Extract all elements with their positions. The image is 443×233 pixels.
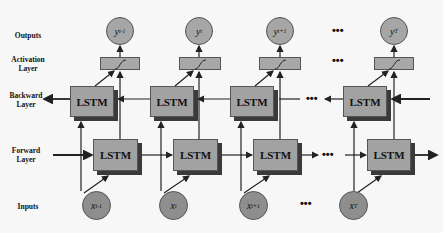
row-label-inputs: Inputs: [8, 202, 48, 211]
backward-lstm-cell-3: LSTM: [230, 86, 274, 117]
backward-lstm-cell-2: LSTM: [150, 86, 194, 117]
activation-box-3: [259, 57, 301, 70]
row-label-forward-line2: Layer: [6, 155, 46, 164]
forward-lstm-cell-3: LSTM: [253, 139, 298, 171]
input-node-t-plus-1: xt+1: [239, 191, 268, 220]
backward-lstm-cell-4: LSTM: [343, 86, 387, 117]
row-label-backward-line1: Backward: [4, 91, 48, 100]
row-label-backward-line2: Layer: [4, 100, 48, 109]
ellipsis-outputs: •••: [332, 24, 344, 36]
activation-box-1: [100, 57, 140, 70]
row-label-activation: Activation Layer: [6, 55, 50, 73]
ellipsis-activation: •••: [332, 54, 344, 66]
row-label-outputs: Outputs: [6, 31, 50, 40]
output-sub: t+1: [278, 28, 287, 34]
sigmoid-icon: [260, 58, 302, 71]
backward-lstm-cell-1: LSTM: [70, 86, 114, 117]
output-node-t-minus-1: yt-1: [106, 17, 134, 45]
bilstm-diagram: Outputs Activation Layer Backward Layer …: [0, 0, 443, 233]
forward-lstm-cell-1: LSTM: [93, 139, 138, 171]
activation-box-2: [179, 57, 221, 70]
sigmoid-icon: [180, 58, 222, 71]
forward-lstm-cell-4: LSTM: [367, 139, 411, 171]
input-node-t-minus-1: xt-1: [82, 191, 111, 220]
input-sub: t: [175, 203, 177, 209]
output-sub: T: [395, 28, 398, 34]
ellipsis-forward: •••: [322, 148, 334, 160]
output-node-T: yT: [380, 17, 408, 45]
output-node-t: yt: [185, 17, 213, 45]
row-label-forward-line1: Forward: [6, 146, 46, 155]
output-sub: t-1: [119, 28, 126, 34]
input-sub: T: [354, 203, 357, 209]
input-node-t: xt: [159, 191, 188, 220]
activation-box-4: [374, 57, 414, 70]
forward-lstm-cell-2: LSTM: [173, 139, 218, 171]
output-sub: t: [200, 28, 202, 34]
row-label-activation-line1: Activation: [6, 55, 50, 64]
row-label-activation-line2: Layer: [6, 64, 50, 73]
ellipsis-backward: •••: [306, 92, 318, 104]
row-label-backward: Backward Layer: [4, 91, 48, 109]
row-label-forward: Forward Layer: [6, 146, 46, 164]
output-node-t-plus-1: yt+1: [266, 17, 294, 45]
sigmoid-icon: [101, 58, 141, 71]
input-node-T: xT: [339, 191, 368, 220]
input-sub: t-1: [95, 203, 102, 209]
input-sub: t+1: [251, 203, 260, 209]
sigmoid-icon: [375, 58, 415, 71]
ellipsis-inputs: •••: [300, 197, 312, 209]
